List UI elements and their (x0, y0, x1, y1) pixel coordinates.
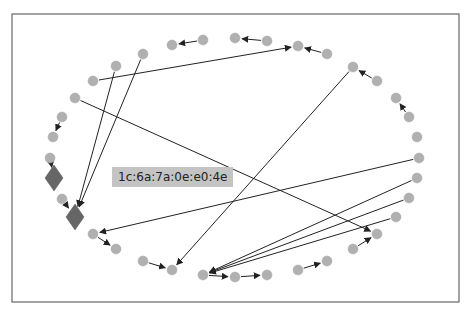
circle-node[interactable] (372, 76, 382, 86)
circle-node[interactable] (198, 270, 208, 280)
circle-node[interactable] (111, 61, 121, 71)
circle-node[interactable] (57, 194, 67, 204)
network-graph (0, 0, 471, 314)
circle-node[interactable] (88, 76, 98, 86)
circle-node[interactable] (322, 256, 332, 266)
circle-node[interactable] (138, 49, 148, 59)
circle-node[interactable] (198, 35, 208, 45)
circle-node[interactable] (111, 244, 121, 254)
edge-arrow (51, 164, 52, 167)
circle-node[interactable] (404, 193, 414, 203)
circle-node[interactable] (45, 153, 55, 163)
circle-node[interactable] (70, 93, 80, 103)
circle-node[interactable] (391, 93, 401, 103)
circle-node[interactable] (293, 41, 303, 51)
circle-node[interactable] (262, 270, 272, 280)
circle-node[interactable] (230, 33, 240, 43)
circle-node[interactable] (88, 229, 98, 239)
circle-node[interactable] (262, 36, 272, 46)
node-label: 1c:6a:7a:0e:e0:4e (112, 167, 233, 187)
circle-node[interactable] (293, 265, 303, 275)
circle-node[interactable] (138, 256, 148, 266)
circle-node[interactable] (322, 49, 332, 59)
circle-node[interactable] (414, 153, 424, 163)
circle-node[interactable] (412, 173, 422, 183)
circle-node[interactable] (230, 272, 240, 282)
circle-node[interactable] (391, 212, 401, 222)
circle-node[interactable] (412, 132, 422, 142)
circle-node[interactable] (57, 112, 67, 122)
circle-node[interactable] (404, 112, 414, 122)
circle-node[interactable] (372, 229, 382, 239)
circle-node[interactable] (167, 40, 177, 50)
circle-node[interactable] (48, 132, 58, 142)
plot-frame (12, 14, 459, 302)
circle-node[interactable] (348, 244, 358, 254)
circle-node[interactable] (167, 265, 177, 275)
circle-node[interactable] (348, 62, 358, 72)
